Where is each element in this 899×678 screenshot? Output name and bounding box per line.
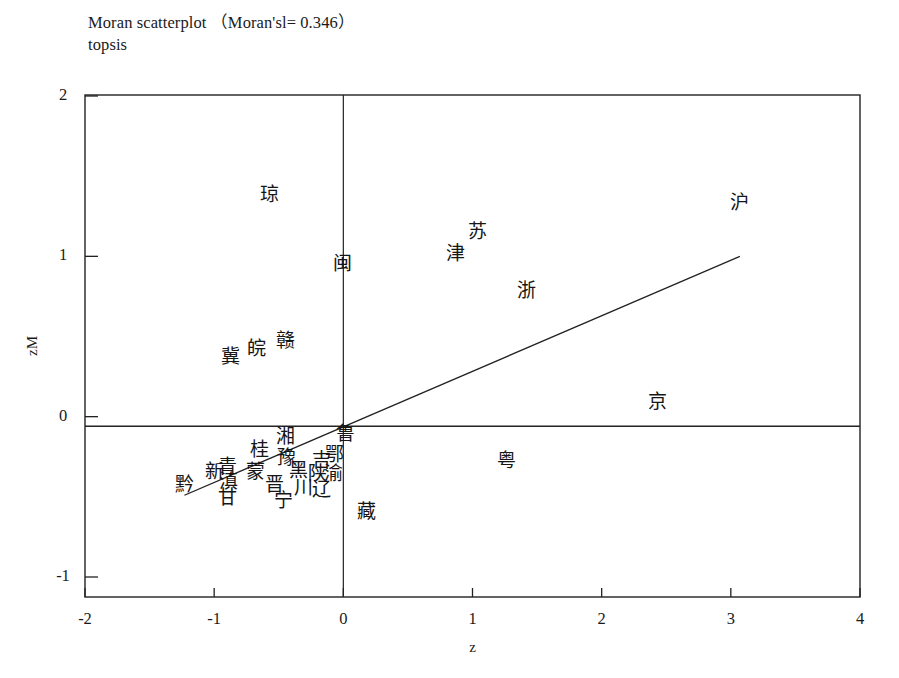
data-point-label: 鲁 (336, 423, 355, 442)
plot-frame (85, 95, 860, 597)
x-tick-label: -2 (78, 609, 92, 629)
data-point-label: 沪 (730, 192, 749, 211)
data-point-label: 川 (294, 478, 313, 497)
data-point-label: 宁 (274, 491, 293, 510)
x-tick-label: 1 (468, 609, 476, 629)
data-point-label: 蒙 (246, 462, 265, 481)
chart-canvas: Moran scatterplot （Moran'sl= 0.346） tops… (0, 0, 899, 678)
data-point-label: 桂 (250, 439, 269, 458)
data-point-label: 藏 (357, 502, 376, 521)
x-tick-label: 2 (598, 609, 606, 629)
y-tick-label: 1 (59, 245, 67, 265)
data-point-label: 闽 (333, 253, 352, 272)
data-point-label: 辽 (312, 479, 331, 498)
data-point-label: 甘 (218, 487, 237, 506)
y-axis-title: zM (24, 336, 41, 356)
data-point-label: 苏 (468, 221, 487, 240)
reference-lines (85, 95, 860, 597)
y-tick-label: 2 (59, 85, 67, 105)
data-point-label: 湘 (276, 426, 295, 445)
data-point-label: 赣 (276, 330, 295, 349)
axis-ticks (85, 96, 860, 597)
data-point-label: 冀 (221, 346, 240, 365)
data-point-label: 皖 (247, 338, 266, 357)
data-point-label: 津 (446, 244, 465, 263)
plot-area-svg (0, 0, 899, 678)
data-point-label: 粤 (497, 450, 516, 469)
x-axis-title: z (469, 639, 476, 656)
data-point-label: 琼 (260, 184, 279, 203)
x-tick-label: 0 (339, 609, 347, 629)
data-point-label: 浙 (517, 281, 536, 300)
regression-line (184, 256, 739, 495)
data-point-label: 京 (648, 391, 667, 410)
y-tick-label: -1 (56, 566, 70, 586)
y-tick-label: 0 (59, 406, 67, 426)
x-tick-label: 4 (856, 609, 864, 629)
x-tick-label: -1 (207, 609, 221, 629)
data-point-label: 黔 (175, 475, 194, 494)
x-tick-label: 3 (727, 609, 735, 629)
